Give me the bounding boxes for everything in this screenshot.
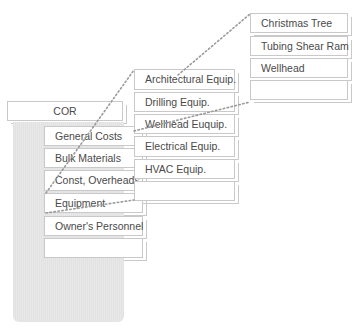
node-label: Owner's Personnel [55, 221, 143, 232]
node-label: Wellhead Euquip. [145, 119, 227, 130]
node-label: Architectural Equip. [145, 74, 236, 85]
node-electrical-equip[interactable]: Electrical Equip. [134, 136, 235, 157]
cor-label: COR [53, 106, 76, 117]
cor-root-node[interactable]: COR [7, 101, 123, 121]
node-hvac-equip[interactable]: HVAC Equip. [134, 159, 235, 179]
node-label: Wellhead [261, 63, 305, 74]
node-empty-level2[interactable] [134, 181, 235, 201]
node-label: General Costs [55, 131, 122, 142]
node-tubing-shear-ram[interactable]: Tubing Shear Ram [250, 36, 348, 56]
node-label: Equipment [55, 198, 105, 209]
node-empty-level3[interactable] [250, 80, 348, 100]
node-drilling-equip[interactable]: Drilling Equip. [134, 92, 235, 112]
node-const-overheads[interactable]: Const, Overheads [44, 170, 143, 191]
node-label: Tubing Shear Ram [261, 41, 349, 52]
node-owners-personnel[interactable]: Owner's Personnel [44, 216, 143, 236]
node-label: Bulk Materials [55, 153, 121, 164]
node-christmas-tree[interactable]: Christmas Tree [250, 13, 348, 33]
node-equipment[interactable]: Equipment [44, 193, 143, 213]
node-general-costs[interactable]: General Costs [44, 126, 143, 146]
connector-wellhead-top [178, 14, 250, 75]
node-label: HVAC Equip. [145, 164, 206, 175]
node-label: Drilling Equip. [145, 97, 210, 108]
node-label: Electrical Equip. [145, 141, 220, 152]
node-label: Const, Overheads [55, 175, 140, 186]
node-architectural-equip[interactable]: Architectural Equip. [134, 69, 235, 90]
node-empty-level1[interactable] [44, 238, 143, 258]
node-bulk-materials[interactable]: Bulk Materials [44, 148, 143, 168]
node-wellhead[interactable]: Wellhead [250, 58, 348, 78]
node-wellhead-equip[interactable]: Wellhead Euquip. [134, 114, 235, 134]
node-label: Christmas Tree [261, 18, 332, 29]
